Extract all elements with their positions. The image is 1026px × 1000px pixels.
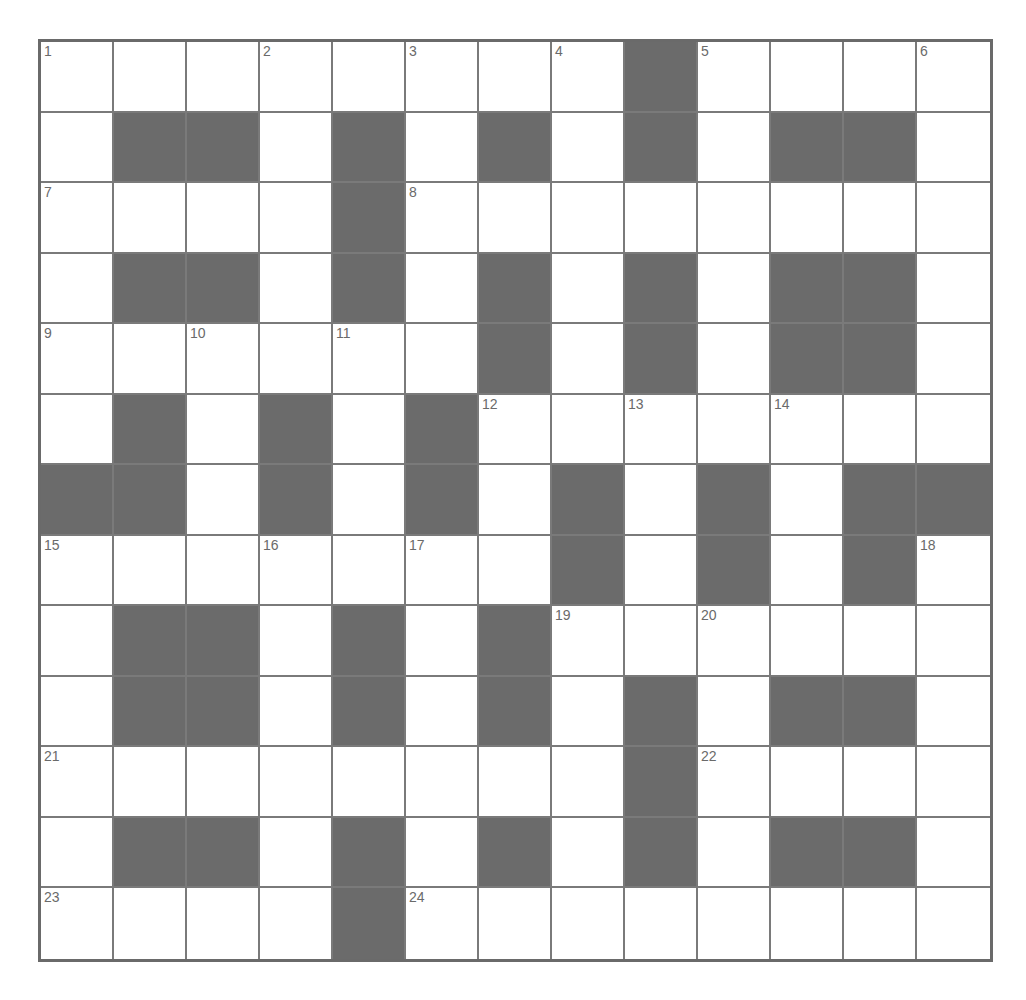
- answer-cell[interactable]: [187, 465, 260, 536]
- answer-cell[interactable]: 18: [917, 536, 990, 607]
- answer-cell[interactable]: [917, 395, 990, 466]
- answer-cell[interactable]: [187, 747, 260, 818]
- answer-cell[interactable]: [187, 888, 260, 959]
- answer-cell[interactable]: 23: [41, 888, 114, 959]
- answer-cell[interactable]: [406, 324, 479, 395]
- answer-cell[interactable]: [187, 536, 260, 607]
- answer-cell[interactable]: 24: [406, 888, 479, 959]
- answer-cell[interactable]: [552, 183, 625, 254]
- answer-cell[interactable]: 13: [625, 395, 698, 466]
- answer-cell[interactable]: [917, 324, 990, 395]
- answer-cell[interactable]: [771, 536, 844, 607]
- answer-cell[interactable]: [917, 606, 990, 677]
- answer-cell[interactable]: [698, 395, 771, 466]
- answer-cell[interactable]: [406, 606, 479, 677]
- answer-cell[interactable]: 2: [260, 42, 333, 113]
- answer-cell[interactable]: [844, 888, 917, 959]
- answer-cell[interactable]: [552, 747, 625, 818]
- answer-cell[interactable]: [917, 113, 990, 184]
- answer-cell[interactable]: [479, 183, 552, 254]
- answer-cell[interactable]: 20: [698, 606, 771, 677]
- answer-cell[interactable]: [187, 183, 260, 254]
- answer-cell[interactable]: 4: [552, 42, 625, 113]
- answer-cell[interactable]: 9: [41, 324, 114, 395]
- answer-cell[interactable]: [771, 465, 844, 536]
- answer-cell[interactable]: [552, 818, 625, 889]
- answer-cell[interactable]: [333, 536, 406, 607]
- answer-cell[interactable]: [552, 254, 625, 325]
- answer-cell[interactable]: [625, 888, 698, 959]
- answer-cell[interactable]: [625, 183, 698, 254]
- answer-cell[interactable]: [479, 536, 552, 607]
- answer-cell[interactable]: [552, 395, 625, 466]
- answer-cell[interactable]: [260, 606, 333, 677]
- answer-cell[interactable]: [479, 747, 552, 818]
- answer-cell[interactable]: 14: [771, 395, 844, 466]
- answer-cell[interactable]: [552, 677, 625, 748]
- answer-cell[interactable]: [844, 42, 917, 113]
- answer-cell[interactable]: [114, 536, 187, 607]
- answer-cell[interactable]: [260, 324, 333, 395]
- answer-cell[interactable]: [625, 606, 698, 677]
- answer-cell[interactable]: [625, 536, 698, 607]
- answer-cell[interactable]: 10: [187, 324, 260, 395]
- answer-cell[interactable]: [41, 113, 114, 184]
- answer-cell[interactable]: [333, 465, 406, 536]
- answer-cell[interactable]: [41, 254, 114, 325]
- answer-cell[interactable]: [114, 324, 187, 395]
- answer-cell[interactable]: 5: [698, 42, 771, 113]
- answer-cell[interactable]: [917, 677, 990, 748]
- answer-cell[interactable]: [260, 113, 333, 184]
- answer-cell[interactable]: [552, 324, 625, 395]
- answer-cell[interactable]: 16: [260, 536, 333, 607]
- answer-cell[interactable]: 15: [41, 536, 114, 607]
- answer-cell[interactable]: [260, 818, 333, 889]
- answer-cell[interactable]: [771, 606, 844, 677]
- answer-cell[interactable]: [406, 747, 479, 818]
- answer-cell[interactable]: [844, 395, 917, 466]
- answer-cell[interactable]: [844, 606, 917, 677]
- answer-cell[interactable]: [479, 465, 552, 536]
- answer-cell[interactable]: [771, 42, 844, 113]
- answer-cell[interactable]: [260, 747, 333, 818]
- answer-cell[interactable]: [917, 183, 990, 254]
- answer-cell[interactable]: 11: [333, 324, 406, 395]
- answer-cell[interactable]: [844, 747, 917, 818]
- answer-cell[interactable]: [41, 677, 114, 748]
- answer-cell[interactable]: [114, 42, 187, 113]
- answer-cell[interactable]: [114, 888, 187, 959]
- answer-cell[interactable]: [187, 395, 260, 466]
- answer-cell[interactable]: 8: [406, 183, 479, 254]
- answer-cell[interactable]: [479, 888, 552, 959]
- answer-cell[interactable]: [406, 818, 479, 889]
- answer-cell[interactable]: [625, 465, 698, 536]
- answer-cell[interactable]: [260, 888, 333, 959]
- answer-cell[interactable]: [698, 677, 771, 748]
- answer-cell[interactable]: 21: [41, 747, 114, 818]
- answer-cell[interactable]: [698, 113, 771, 184]
- answer-cell[interactable]: [260, 183, 333, 254]
- answer-cell[interactable]: [917, 747, 990, 818]
- answer-cell[interactable]: [698, 818, 771, 889]
- answer-cell[interactable]: 17: [406, 536, 479, 607]
- answer-cell[interactable]: [771, 747, 844, 818]
- answer-cell[interactable]: [333, 747, 406, 818]
- answer-cell[interactable]: [260, 254, 333, 325]
- answer-cell[interactable]: [698, 888, 771, 959]
- answer-cell[interactable]: [187, 42, 260, 113]
- answer-cell[interactable]: [41, 818, 114, 889]
- answer-cell[interactable]: [406, 113, 479, 184]
- answer-cell[interactable]: 1: [41, 42, 114, 113]
- answer-cell[interactable]: [333, 42, 406, 113]
- answer-cell[interactable]: 19: [552, 606, 625, 677]
- answer-cell[interactable]: [552, 113, 625, 184]
- answer-cell[interactable]: [917, 818, 990, 889]
- answer-cell[interactable]: 22: [698, 747, 771, 818]
- answer-cell[interactable]: [917, 254, 990, 325]
- answer-cell[interactable]: 3: [406, 42, 479, 113]
- answer-cell[interactable]: 7: [41, 183, 114, 254]
- answer-cell[interactable]: [771, 888, 844, 959]
- answer-cell[interactable]: [698, 254, 771, 325]
- answer-cell[interactable]: [333, 395, 406, 466]
- answer-cell[interactable]: [406, 254, 479, 325]
